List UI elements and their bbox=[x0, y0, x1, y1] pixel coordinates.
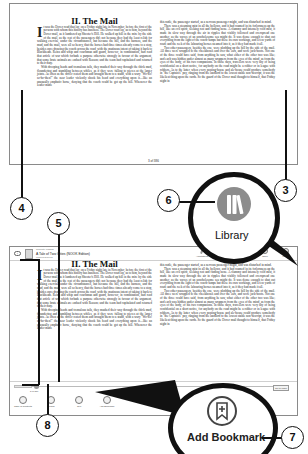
callout-8-leader bbox=[47, 384, 49, 417]
text-label: Text bbox=[77, 405, 81, 407]
library-magnified-label: Library bbox=[215, 229, 249, 241]
left-text-column: II. The Mail It was the Dover road that … bbox=[37, 20, 152, 88]
paragraph: t was the Dover road that lay, on a Frid… bbox=[37, 25, 152, 66]
page-slider-label: 3 of 386 bbox=[30, 390, 38, 392]
book-author: Charles Dickens bbox=[36, 256, 53, 258]
paragraph: With drooping heads and tremulous tails,… bbox=[37, 309, 152, 331]
add-bookmark-magnified-icon bbox=[207, 396, 237, 426]
callout-4: 4 bbox=[10, 197, 33, 220]
paragraph: There was a steaming mist in all the hol… bbox=[160, 25, 275, 47]
book-cover-thumbnail[interactable] bbox=[25, 249, 33, 259]
reading-view-fullscreen[interactable]: II. The Mail It was the Dover road that … bbox=[9, 3, 298, 165]
back-leader-h bbox=[20, 259, 39, 261]
callout-5: 5 bbox=[47, 212, 70, 235]
right-text-column: this rattle, the passenger started, as a… bbox=[160, 264, 275, 326]
book-title: A Tale of Two Cities (NOOK Edition) bbox=[36, 252, 90, 256]
library-books-icon bbox=[217, 187, 251, 221]
paragraph: t was the Dover road that lay, on a Frid… bbox=[37, 268, 152, 309]
callout-4-leader bbox=[21, 90, 23, 198]
paragraph: With drooping heads and tremulous tails,… bbox=[37, 66, 152, 88]
add-bookmark-magnified-label: Add Bookmark bbox=[187, 431, 265, 443]
chapter-title: II. The Mail bbox=[37, 20, 152, 24]
currently-reading-label: Currently reading bbox=[36, 248, 54, 250]
right-text-column: this rattle, the passenger started, as a… bbox=[160, 21, 275, 83]
library-magnifier: Library bbox=[188, 172, 280, 264]
paragraph: Two other passengers, besides the one, w… bbox=[160, 290, 275, 327]
back-button[interactable]: ‹ bbox=[14, 251, 21, 256]
paragraph: Two other passengers, besides the one, w… bbox=[160, 47, 275, 84]
dropcap: I bbox=[37, 27, 42, 38]
go-to-page-button[interactable]: Go to Page bbox=[273, 385, 289, 391]
back-leader-v bbox=[38, 259, 40, 385]
table-of-contents-button[interactable]: Table of Contents bbox=[14, 396, 32, 407]
callout-8: 8 bbox=[36, 414, 59, 437]
chapter-title: II. The Mail bbox=[37, 263, 152, 267]
page-indicator: 3 of 386 bbox=[148, 159, 159, 163]
text-icon bbox=[75, 396, 83, 404]
left-text-column: II. The Mail It was the Dover road that … bbox=[37, 263, 152, 331]
search-button[interactable]: Search bbox=[42, 396, 60, 407]
contents-icon bbox=[19, 396, 27, 404]
callout-5-leader bbox=[58, 232, 60, 382]
callout-6-leader bbox=[178, 201, 215, 203]
table-of-contents-label: Table of Contents bbox=[14, 405, 32, 407]
callout-7-leader bbox=[262, 437, 282, 439]
callout-7: 7 bbox=[281, 426, 304, 449]
slider-leader-h bbox=[22, 384, 39, 386]
text-button[interactable]: Text bbox=[70, 396, 88, 407]
paragraph: There was a steaming mist in all the hol… bbox=[160, 268, 275, 290]
callout-6: 6 bbox=[157, 189, 180, 212]
